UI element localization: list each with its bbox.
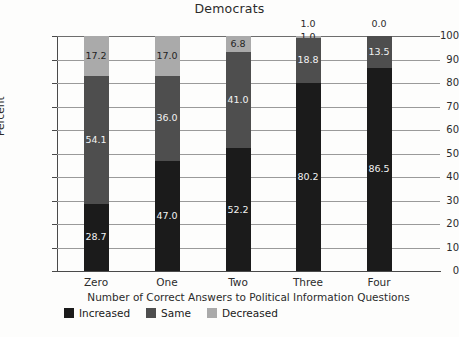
chart-figure: Democrats Percent 0102030405060708090100… <box>0 0 459 337</box>
bar-outside-value-label: 0.0 <box>354 19 404 29</box>
bar-segment-value-label: 54.1 <box>84 135 109 145</box>
y-axis-label: Percent <box>0 96 6 136</box>
legend-swatch-icon <box>207 308 217 318</box>
stacked-bar[interactable]: 17.254.128.7 <box>84 36 109 271</box>
plot-area: 17.254.128.717.036.047.06.841.052.21.018… <box>57 36 440 271</box>
x-axis-tick-label: Zero <box>66 276 126 288</box>
bar-segment-value-label: 6.8 <box>226 39 251 49</box>
bar-segment-same[interactable]: 41.0 <box>226 52 251 148</box>
stacked-bar[interactable]: 17.036.047.0 <box>155 36 180 271</box>
bar-segment-same[interactable]: 54.1 <box>84 76 109 203</box>
x-axis-tick-label: One <box>137 276 197 288</box>
bar-segment-increased[interactable]: 52.2 <box>226 148 251 271</box>
bar-segment-value-label: 52.2 <box>226 205 251 215</box>
x-axis-line <box>57 271 441 272</box>
bar-segment-decreased[interactable]: 6.8 <box>226 36 251 52</box>
x-axis-tick-label: Two <box>208 276 268 288</box>
bar-segment-increased[interactable]: 28.7 <box>84 204 109 271</box>
bar-segment-decreased[interactable]: 17.0 <box>155 36 180 76</box>
bar-segment-same[interactable]: 36.0 <box>155 76 180 161</box>
bar-segment-value-label: 13.5 <box>367 47 392 57</box>
bar-segment-increased[interactable]: 47.0 <box>155 161 180 271</box>
bar-outside-value-label: 1.0 <box>283 19 333 29</box>
legend-label: Same <box>161 307 191 319</box>
stacked-bar[interactable]: 13.586.5 <box>367 36 392 271</box>
legend-item[interactable]: Decreased <box>207 307 278 319</box>
bar-segment-same[interactable]: 13.5 <box>367 36 392 68</box>
bar-segment-value-label: 28.7 <box>84 232 109 242</box>
bar-segment-value-label: 41.0 <box>226 95 251 105</box>
bar-segment-value-label: 47.0 <box>155 211 180 221</box>
chart-legend: IncreasedSameDecreased <box>64 307 278 319</box>
bar-segment-value-label: 18.8 <box>296 55 321 65</box>
x-axis-tick-label: Three <box>278 276 338 288</box>
stacked-bar[interactable]: 1.018.880.2 <box>296 36 321 271</box>
bar-segment-increased[interactable]: 86.5 <box>367 68 392 271</box>
legend-label: Increased <box>79 307 130 319</box>
bar-segment-value-label: 80.2 <box>296 172 321 182</box>
legend-label: Decreased <box>222 307 278 319</box>
x-axis-tick-label: Four <box>349 276 409 288</box>
legend-swatch-icon <box>64 308 74 318</box>
x-axis-label: Number of Correct Answers to Political I… <box>0 291 459 303</box>
bar-segment-value-label: 17.2 <box>84 51 109 61</box>
legend-item[interactable]: Same <box>146 307 191 319</box>
legend-item[interactable]: Increased <box>64 307 130 319</box>
bar-segment-same[interactable]: 18.8 <box>296 38 321 82</box>
chart-title: Democrats <box>0 1 459 16</box>
legend-swatch-icon <box>146 308 156 318</box>
bar-segment-value-label: 36.0 <box>155 113 180 123</box>
bar-segment-value-label: 17.0 <box>155 51 180 61</box>
bar-segment-increased[interactable]: 80.2 <box>296 83 321 271</box>
stacked-bar[interactable]: 6.841.052.2 <box>226 36 251 271</box>
bar-segment-value-label: 86.5 <box>367 164 392 174</box>
bar-segment-decreased[interactable]: 17.2 <box>84 36 109 76</box>
